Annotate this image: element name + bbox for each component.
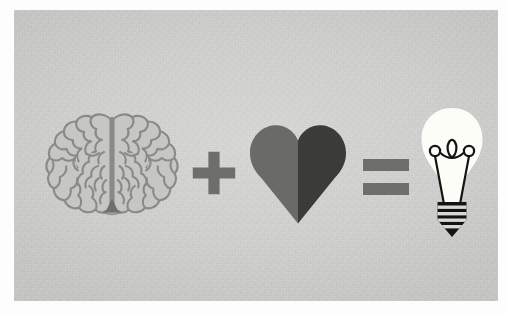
- bulb-base-stripe: [434, 225, 470, 228]
- bulb-base-stripe: [434, 219, 470, 222]
- brain-stem-base: [103, 209, 121, 215]
- heart-icon: Heart: [248, 122, 348, 226]
- illustration-canvas: Brain + Heart: [14, 10, 498, 301]
- bulb-base: [434, 202, 470, 237]
- heart-right-half: [298, 125, 346, 223]
- equals-bar-bottom: [363, 183, 409, 195]
- equation-row: Brain + Heart: [14, 10, 498, 301]
- equals-bar-top: [363, 159, 409, 171]
- brain-icon: Brain: [42, 108, 182, 226]
- lightbulb-icon: Light bulb: [416, 104, 488, 238]
- bulb-glass: [422, 108, 483, 203]
- poster: Brain + Heart: [0, 0, 508, 315]
- heart-left-half: [250, 125, 298, 223]
- plus-glyph: [193, 152, 235, 194]
- plus-icon: +: [192, 151, 236, 195]
- equals-icon: =: [362, 156, 410, 198]
- bulb-base-stripe: [434, 212, 470, 215]
- bulb-base-stripe: [434, 206, 470, 209]
